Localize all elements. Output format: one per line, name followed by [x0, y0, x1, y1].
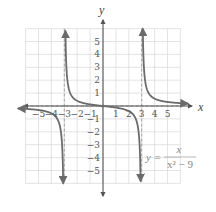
right-branch-curve [143, 29, 188, 103]
y-tick-label: −2 [87, 127, 100, 137]
y-tick-label: −1 [87, 114, 100, 124]
x-tick-label: −3 [58, 109, 72, 119]
y-tick-label: 4 [94, 49, 100, 59]
x-tick-label: −5 [32, 109, 46, 119]
rational-function-graph: −5−4−3−2−112345−5−4−3−2−112345 x y y = x… [0, 0, 216, 212]
equation-denominator: x² − 9 [167, 158, 194, 170]
y-tick-label: 5 [94, 37, 100, 47]
x-tick-label: 2 [126, 109, 132, 119]
x-axis-label: x [197, 100, 204, 114]
x-tick-label: −2 [71, 109, 84, 119]
x-tick-label: −4 [45, 109, 59, 119]
y-tick-label: 1 [94, 88, 100, 98]
y-tick-label: −4 [87, 153, 101, 163]
x-tick-label: 4 [152, 109, 158, 119]
left-branch-curve [19, 108, 64, 182]
y-tick-label: 3 [94, 62, 100, 72]
equation-lhs: y = [145, 151, 161, 163]
x-tick-label: 1 [113, 109, 119, 119]
y-tick-label: 2 [94, 75, 100, 85]
y-tick-label: −5 [87, 166, 101, 176]
x-tick-label: 5 [165, 109, 171, 119]
y-axis-label: y [98, 3, 105, 17]
x-tick-label: 3 [139, 109, 145, 119]
y-tick-label: −3 [87, 140, 101, 150]
equation-numerator: x [176, 143, 182, 155]
equation-label: y = x x² − 9 [145, 143, 196, 170]
